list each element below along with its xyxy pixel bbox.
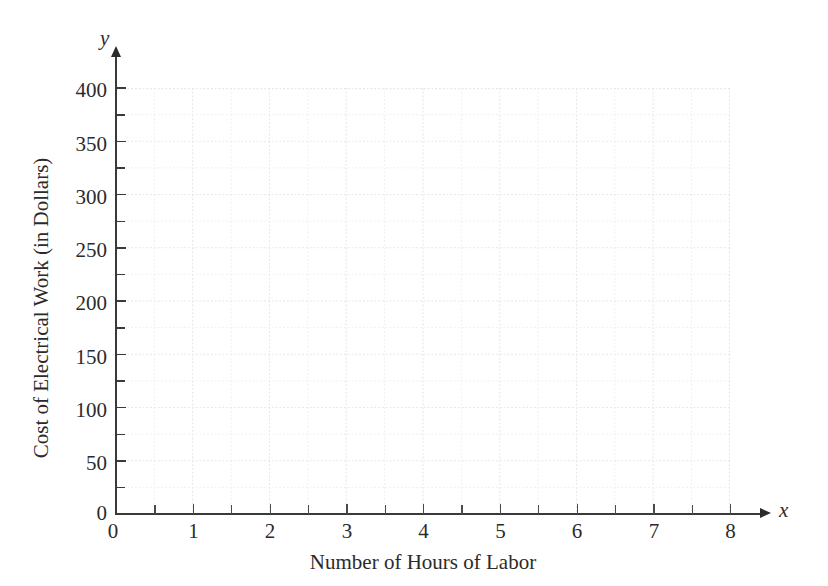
x-tick-label-0: 0 — [93, 520, 133, 542]
x-tick-2 — [270, 504, 271, 514]
y-tick-75 — [116, 434, 125, 436]
x-axis-arrow-icon — [760, 508, 771, 518]
graph-figure: 400 350 300 250 200 150 100 50 0 0 1 2 3… — [0, 0, 828, 586]
x-tick-6p5 — [615, 505, 616, 514]
y-tick-325 — [116, 167, 125, 169]
x-tick-label-2: 2 — [250, 520, 290, 542]
y-tick-225 — [116, 274, 125, 276]
x-tick-1p5 — [231, 505, 232, 514]
y-tick-label-200: 200 — [76, 293, 108, 314]
x-axis-line — [115, 513, 763, 515]
x-tick-5p5 — [538, 505, 539, 514]
y-axis-title: Cost of Electrical Work (in Dollars) — [30, 93, 52, 523]
y-tick-label-50: 50 — [86, 453, 107, 474]
x-tick-8 — [730, 504, 731, 514]
y-tick-275 — [116, 221, 125, 223]
grid-lines — [116, 88, 730, 514]
x-tick-label-8: 8 — [711, 520, 751, 542]
y-tick-label-250: 250 — [76, 240, 108, 261]
y-tick-175 — [116, 327, 125, 329]
y-tick-125 — [116, 380, 125, 382]
y-tick-375 — [116, 114, 125, 116]
x-tick-5 — [500, 504, 501, 514]
x-tick-7p5 — [692, 505, 693, 514]
y-tick-300 — [116, 194, 126, 196]
y-tick-label-300: 300 — [76, 187, 108, 208]
y-tick-50 — [116, 460, 126, 462]
y-axis-line — [115, 55, 117, 515]
x-tick-label-5: 5 — [480, 520, 520, 542]
x-tick-6 — [577, 504, 578, 514]
plot-area — [116, 88, 730, 514]
x-axis-variable-label: x — [779, 500, 788, 521]
x-tick-7 — [653, 504, 654, 514]
x-tick-0p5 — [154, 505, 155, 514]
y-tick-200 — [116, 300, 126, 302]
x-tick-label-4: 4 — [404, 520, 444, 542]
y-axis-arrow-icon — [111, 46, 121, 57]
y-tick-label-100: 100 — [76, 400, 108, 421]
y-tick-label-350: 350 — [76, 134, 108, 155]
y-tick-400 — [116, 87, 126, 89]
x-axis-title: Number of Hours of Labor — [116, 550, 730, 574]
y-tick-150 — [116, 354, 126, 356]
x-tick-3 — [346, 504, 347, 514]
y-axis-variable-label: y — [100, 28, 109, 49]
y-tick-250 — [116, 247, 126, 249]
y-tick-100 — [116, 407, 126, 409]
x-tick-4p5 — [461, 505, 462, 514]
y-tick-label-150: 150 — [76, 347, 108, 368]
y-tick-label-400: 400 — [76, 80, 108, 101]
y-tick-350 — [116, 141, 126, 143]
x-tick-1 — [193, 504, 194, 514]
x-tick-label-7: 7 — [634, 520, 674, 542]
x-tick-label-6: 6 — [557, 520, 597, 542]
x-tick-3p5 — [385, 505, 386, 514]
y-tick-label-group: 400 350 300 250 200 150 100 50 0 — [0, 0, 107, 586]
x-tick-label-1: 1 — [173, 520, 213, 542]
y-tick-25 — [116, 487, 125, 489]
x-tick-label-3: 3 — [327, 520, 367, 542]
x-tick-4 — [423, 504, 424, 514]
x-tick-2p5 — [308, 505, 309, 514]
